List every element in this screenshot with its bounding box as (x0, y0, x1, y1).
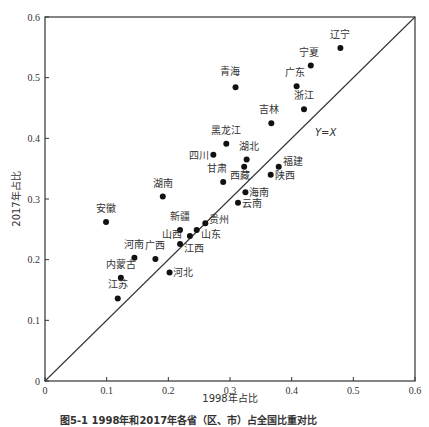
point-label: 河南 (124, 238, 144, 250)
data-point: 黑龙江 (211, 124, 241, 147)
y-tick-label: 0.2 (28, 254, 41, 265)
point-label: 新疆 (170, 210, 190, 222)
x-tick-label: 0.5 (347, 385, 360, 396)
point-label: 浙江 (294, 90, 314, 101)
scatter-chart: 00.10.20.30.40.50.600.10.20.30.40.50.6 Y… (0, 0, 429, 410)
x-tick-label: 0.4 (285, 385, 298, 396)
x-axis-title: 1998年占比 (202, 392, 257, 404)
point-label: 湖南 (153, 177, 173, 189)
data-point: 广东 (285, 66, 305, 89)
data-point: 青海 (220, 65, 240, 90)
x-tick-label: 0 (43, 385, 48, 396)
point-marker (194, 227, 200, 233)
point-label: 安徽 (96, 202, 116, 214)
point-label: 西藏 (230, 170, 250, 181)
data-point: 广西 (145, 240, 165, 262)
point-label: 内蒙古 (106, 258, 136, 270)
data-point: 海南 (242, 186, 269, 198)
data-point: 甘肃 (207, 162, 227, 185)
point-label: 湖北 (239, 141, 259, 152)
reference-line-label: Y=X (315, 127, 337, 138)
point-label: 贵州 (209, 213, 229, 225)
data-point: 陕西 (268, 169, 295, 181)
point-label: 江西 (184, 243, 204, 254)
point-marker (223, 141, 229, 147)
point-marker (220, 179, 226, 185)
data-point: 四川 (189, 150, 216, 161)
point-marker (160, 194, 166, 200)
data-points: 辽宁宁夏广东青海浙江吉林黑龙江四川湖北西藏福建陕西甘肃湖南海南云南安徽贵州新疆山… (96, 28, 350, 302)
point-marker (235, 200, 241, 206)
point-label: 黑龙江 (211, 124, 241, 136)
point-marker (233, 84, 239, 90)
point-label: 陕西 (275, 169, 295, 181)
data-point: 河南 (124, 238, 144, 261)
point-marker (210, 152, 216, 158)
data-point: 湖南 (153, 177, 173, 200)
data-point: 浙江 (294, 90, 314, 112)
point-label: 广西 (145, 240, 165, 251)
point-label: 山西 (162, 229, 182, 240)
data-point: 宁夏 (299, 46, 319, 69)
y-tick-label: 0.1 (28, 315, 41, 326)
y-tick-label: 0.4 (28, 133, 41, 144)
point-marker (294, 83, 300, 89)
point-label: 福建 (283, 155, 303, 167)
point-marker (242, 189, 248, 195)
point-marker (337, 45, 343, 51)
x-tick-label: 0.2 (162, 385, 175, 396)
point-label: 云南 (242, 197, 262, 209)
point-marker (152, 256, 158, 262)
point-marker (268, 172, 274, 178)
point-label: 山东 (201, 228, 221, 240)
point-marker (177, 241, 183, 247)
data-point: 湖北 (239, 141, 259, 163)
point-label: 辽宁 (330, 28, 350, 40)
data-point: 福建 (276, 155, 303, 170)
y-axis-title: 2017年占比 (10, 171, 22, 226)
data-point: 吉林 (259, 103, 279, 126)
point-label: 宁夏 (299, 46, 319, 58)
data-point: 云南 (235, 197, 262, 209)
point-marker (301, 106, 307, 112)
point-marker (202, 220, 208, 226)
point-label: 青海 (220, 65, 240, 77)
point-marker (103, 219, 109, 225)
point-label: 广东 (285, 66, 305, 78)
point-marker (115, 295, 121, 301)
x-tick-label: 0.6 (409, 385, 422, 396)
data-point: 安徽 (96, 202, 116, 225)
data-point: 贵州 (202, 213, 229, 226)
data-point: 辽宁 (330, 28, 350, 51)
point-label: 四川 (189, 150, 209, 161)
point-label: 甘肃 (207, 162, 227, 174)
point-marker (244, 157, 250, 163)
data-point: 江苏 (108, 278, 128, 301)
figure-caption: 图5-1 1998年和2017年各省（区、市）占全国比重对比 (60, 412, 317, 427)
point-marker (268, 120, 274, 126)
point-label: 吉林 (259, 103, 279, 115)
y-tick-label: 0.3 (28, 194, 41, 205)
point-label: 海南 (249, 186, 269, 198)
data-point: 山西 (162, 229, 193, 240)
point-marker (187, 233, 193, 239)
y-tick-label: 0 (35, 376, 40, 387)
point-marker (308, 63, 314, 69)
data-point: 西藏 (230, 164, 250, 181)
point-label: 河北 (173, 267, 193, 278)
data-point: 河北 (167, 267, 193, 278)
y-tick-label: 0.5 (28, 72, 41, 83)
data-point: 山东 (194, 227, 221, 240)
y-tick-label: 0.6 (28, 12, 41, 23)
data-point: 内蒙古 (106, 258, 136, 281)
x-tick-label: 0.1 (100, 385, 113, 396)
point-label: 江苏 (108, 278, 128, 290)
